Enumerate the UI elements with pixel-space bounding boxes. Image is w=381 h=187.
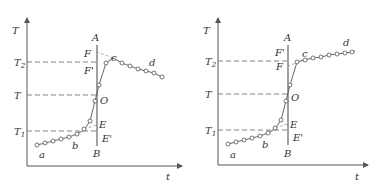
point-f-label: F: [83, 48, 92, 59]
point-o-label: O: [291, 92, 299, 103]
t1-label: T1: [205, 125, 216, 138]
right-diagram: T t T2 T T1 A B F' F O E E' a b c d: [203, 18, 368, 182]
x-axis-label: t: [355, 171, 360, 182]
point-b-lower-label: B: [92, 148, 100, 159]
point-b-lower-label: B: [283, 148, 291, 159]
left-diagram: T t T2 T T1 A B F F' O E E' a b c d: [12, 18, 182, 182]
point-f-label: F: [275, 61, 284, 72]
x-axis-label: t: [166, 171, 171, 182]
point-a-upper-label: A: [91, 32, 99, 43]
data-points: [226, 50, 354, 146]
y-axis-label: T: [12, 25, 20, 36]
segment-c-label: c: [111, 52, 117, 63]
t-label: T: [205, 89, 213, 100]
segment-d-label: d: [149, 57, 155, 68]
point-e-label: E: [98, 119, 107, 130]
point-f-prime-label: F': [83, 65, 94, 76]
t-label: T: [14, 90, 22, 101]
segment-d-label: d: [343, 37, 349, 48]
segment-b-label: b: [72, 140, 78, 151]
segment-b-label: b: [262, 139, 268, 150]
point-a-upper-label: A: [283, 32, 291, 43]
point-e-label: E: [289, 119, 298, 130]
t1-label: T1: [14, 126, 25, 139]
t2-label: T2: [14, 57, 26, 70]
point-e-prime-label: E': [292, 132, 303, 143]
y-axis-label: T: [203, 25, 211, 36]
point-e-prime-label: E': [101, 133, 112, 144]
t2-label: T2: [205, 56, 217, 69]
point-f-prime-label: F': [274, 47, 285, 58]
segment-a-label: a: [230, 149, 236, 160]
point-o-label: O: [100, 95, 108, 106]
temperature-time-diagrams: T t T2 T T1 A B F F' O E E' a b c d: [0, 0, 381, 187]
segment-a-label: a: [39, 149, 45, 160]
segment-c-label: c: [302, 48, 308, 59]
